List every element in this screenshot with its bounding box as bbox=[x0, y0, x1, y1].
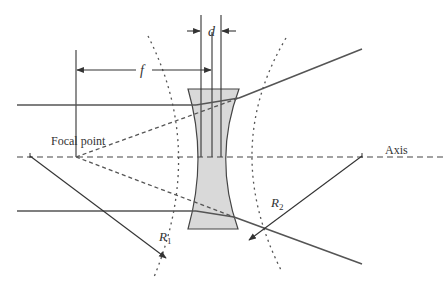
surface-arc-right bbox=[252, 38, 286, 272]
lens-diagram: f d Axis Focal point R1 R2 bbox=[0, 0, 444, 292]
focal-length-label: f bbox=[140, 63, 146, 78]
upper-refracted-ray bbox=[239, 49, 362, 98]
lower-refracted-ray bbox=[234, 217, 362, 264]
focal-point-label: Focal point bbox=[51, 134, 106, 148]
radius1-arrow bbox=[30, 156, 166, 258]
radius2-label: R2 bbox=[270, 195, 283, 212]
axis-label: Axis bbox=[385, 143, 408, 157]
thickness-label: d bbox=[208, 24, 216, 39]
radius2-arrow bbox=[249, 156, 362, 240]
concave-lens bbox=[188, 89, 239, 229]
radius1-label: R1 bbox=[158, 229, 171, 246]
